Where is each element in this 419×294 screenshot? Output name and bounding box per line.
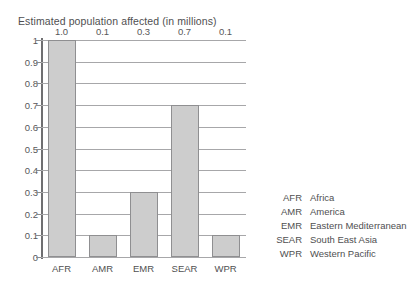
y-axis-tick-label: 0.6 [4, 121, 38, 132]
bar-sear[interactable] [171, 105, 199, 257]
bar-emr[interactable] [130, 192, 158, 257]
legend-code: AFR [272, 192, 302, 203]
legend-row-emr: EMREastern Mediterranean [272, 220, 407, 234]
bar-value-label-amr: 0.1 [96, 26, 109, 37]
legend-code: EMR [272, 220, 302, 231]
x-axis-label-wpr: WPR [214, 263, 236, 274]
bar-value-label-afr: 1.0 [55, 26, 68, 37]
legend-row-amr: AMRAmerica [272, 206, 407, 220]
gridline [41, 257, 246, 258]
legend-description: Eastern Mediterranean [310, 220, 407, 231]
x-axis-label-emr: EMR [133, 263, 154, 274]
bar-wpr[interactable] [212, 235, 240, 257]
legend-row-wpr: WPRWestern Pacific [272, 248, 407, 262]
bar-amr[interactable] [89, 235, 117, 257]
y-axis-tick-label: 0.5 [4, 143, 38, 154]
y-axis-tick-label: 0.9 [4, 56, 38, 67]
x-axis-label-afr: AFR [52, 263, 71, 274]
legend-description: Africa [310, 192, 334, 203]
legend-description: Western Pacific [310, 248, 376, 259]
legend-row-afr: AFRAfrica [272, 192, 407, 206]
bar-value-label-wpr: 0.1 [219, 26, 232, 37]
y-axis-tick-label: 0 [4, 252, 38, 263]
x-axis-label-amr: AMR [92, 263, 113, 274]
y-axis-labels: 00.10.20.30.40.50.60.70.80.91 [0, 0, 38, 294]
y-axis-tick-label: 0.4 [4, 165, 38, 176]
y-axis-tick-label: 0.3 [4, 186, 38, 197]
y-axis-tick-label: 0.8 [4, 78, 38, 89]
y-axis-tick-label: 1 [4, 35, 38, 46]
y-axis-tick-label: 0.2 [4, 208, 38, 219]
bar-value-label-sear: 0.7 [178, 26, 191, 37]
bar-value-label-emr: 0.3 [137, 26, 150, 37]
legend-code: AMR [272, 206, 302, 217]
legend-code: SEAR [272, 234, 302, 245]
bar-afr[interactable] [48, 40, 76, 257]
legend-row-sear: SEARSouth East Asia [272, 234, 407, 248]
legend-code: WPR [272, 248, 302, 259]
bar-chart: 00.10.20.30.40.50.60.70.80.91 1.00.10.30… [0, 0, 260, 294]
y-axis-tick-label: 0.1 [4, 230, 38, 241]
y-axis-tick-label: 0.7 [4, 100, 38, 111]
legend-description: South East Asia [310, 234, 377, 245]
plot-area [41, 40, 246, 257]
legend: AFRAfricaAMRAmericaEMREastern Mediterran… [272, 192, 407, 262]
x-axis-label-sear: SEAR [172, 263, 198, 274]
legend-description: America [310, 206, 345, 217]
